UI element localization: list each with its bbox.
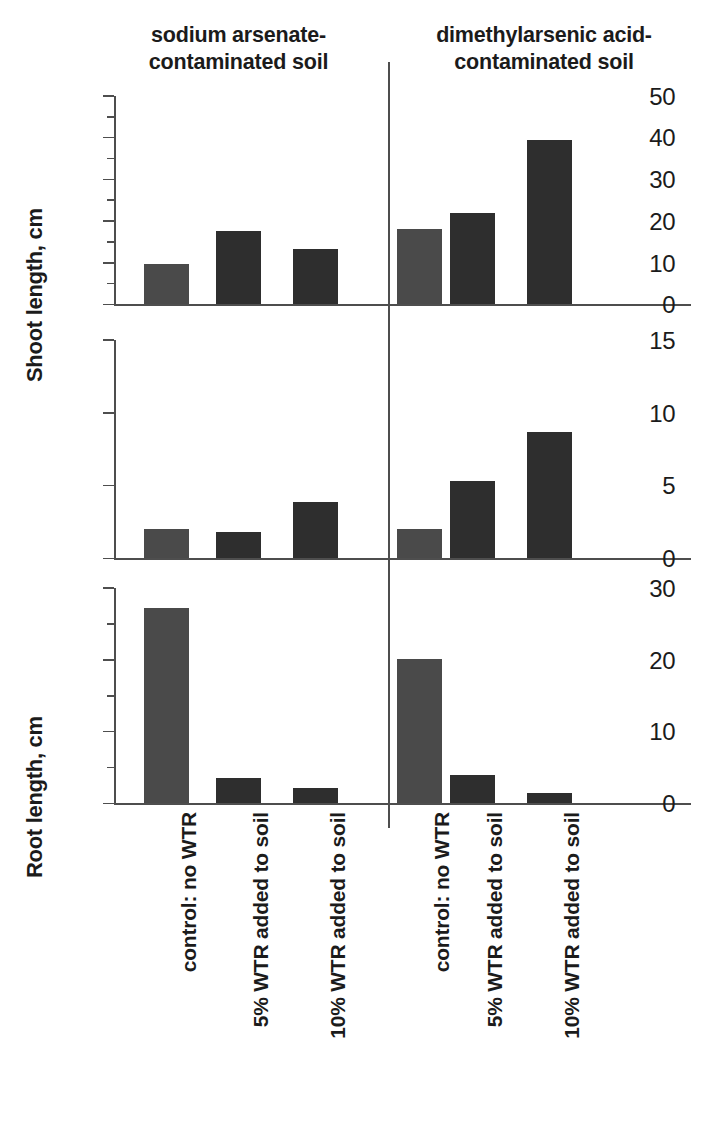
y-axis-tick-label: 0 <box>662 291 675 319</box>
y-axis-tick-label: 5 <box>662 472 675 500</box>
bar-shoot-length-3 <box>397 229 442 305</box>
bar-total-as-in-plant-5 <box>527 793 572 804</box>
x-axis-tick-labels: control: no WTR5% WTR added to soil10% W… <box>0 812 701 1122</box>
y-axis-tick-major <box>103 95 114 97</box>
y-axis-tick-minor <box>107 241 114 243</box>
bar-total-as-in-plant-1 <box>216 778 261 803</box>
x-axis-line <box>114 558 691 560</box>
bar-shoot-length-1 <box>216 231 261 304</box>
y-axis-tick-label: 15 <box>649 327 675 355</box>
bar-root-length-4 <box>450 481 495 558</box>
y-axis-tick-minor <box>107 199 114 201</box>
y-axis-tick-minor <box>107 767 114 769</box>
y-axis-tick-minor <box>107 283 114 285</box>
y-axis-tick-label: 0 <box>662 545 675 573</box>
y-axis-tick-major <box>103 137 114 139</box>
y-axis-tick-major <box>103 558 114 560</box>
group-header-line-1: dimethylarsenic acid- <box>398 22 690 49</box>
y-axis-tick-major <box>103 262 114 264</box>
y-axis-line <box>114 340 116 560</box>
group-header-line-2: contaminated soil <box>398 49 690 76</box>
bar-root-length-0 <box>144 529 189 558</box>
y-axis-tick-minor <box>107 158 114 160</box>
y-axis-tick-label: 10 <box>649 250 675 278</box>
y-axis-tick-major <box>103 179 114 181</box>
bar-total-as-in-plant-3 <box>397 659 442 803</box>
bar-shoot-length-5 <box>527 140 572 305</box>
bar-root-length-5 <box>527 432 572 559</box>
x-axis-line <box>114 803 691 805</box>
x-axis-tick-label-3: control: no WTR <box>430 812 454 972</box>
y-axis-tick-label: 10 <box>649 400 675 428</box>
bar-shoot-length-2 <box>293 249 338 304</box>
group-header-line-1: sodium arsenate- <box>96 22 381 49</box>
y-axis-line <box>114 588 116 805</box>
bar-chart-figure: sodium arsenate- contaminated soil dimet… <box>0 0 701 1133</box>
x-axis-line <box>114 304 691 306</box>
x-axis-tick-label-2: 10% WTR added to soil <box>326 812 350 1039</box>
y-axis-tick-minor <box>107 116 114 118</box>
bar-total-as-in-plant-2 <box>293 788 338 803</box>
plot-area-shoot-length: 01020304050 <box>114 96 691 306</box>
y-axis-line <box>114 96 116 306</box>
y-axis-tick-label: 10 <box>649 718 675 746</box>
y-axis-tick-label: 40 <box>649 124 675 152</box>
bar-root-length-2 <box>293 502 338 559</box>
panel-shoot-length: Shoot length, cm 01020304050 <box>0 86 701 312</box>
y-axis-tick-major <box>103 339 114 341</box>
x-axis-tick-label-5: 10% WTR added to soil <box>560 812 584 1039</box>
y-axis-tick-minor <box>107 695 114 697</box>
panel-total-as-in-plant: Total As in plant, ppm 0102030 <box>0 578 701 812</box>
y-axis-tick-major <box>103 731 114 733</box>
bar-total-as-in-plant-4 <box>450 775 495 804</box>
y-axis-tick-major <box>103 485 114 487</box>
y-axis-tick-label: 20 <box>649 647 675 675</box>
y-axis-tick-label: 50 <box>649 83 675 111</box>
group-header-sodium-arsenate: sodium arsenate- contaminated soil <box>96 22 381 77</box>
bar-total-as-in-plant-0 <box>144 608 189 803</box>
x-axis-tick-label-1: 5% WTR added to soil <box>249 812 273 1027</box>
y-axis-tick-major <box>103 220 114 222</box>
x-axis-tick-label-4: 5% WTR added to soil <box>483 812 507 1027</box>
bar-shoot-length-0 <box>144 264 189 304</box>
y-axis-tick-minor <box>107 623 114 625</box>
plot-area-total-as: 0102030 <box>114 588 691 805</box>
y-axis-tick-major <box>103 803 114 805</box>
bar-shoot-length-4 <box>450 213 495 305</box>
panel-root-length: Root length, cm 051015 <box>0 330 701 566</box>
y-axis-tick-label: 30 <box>649 575 675 603</box>
y-axis-tick-label: 30 <box>649 166 675 194</box>
y-axis-tick-major <box>103 587 114 589</box>
x-axis-tick-label-0: control: no WTR <box>177 812 201 972</box>
group-header-dimethylarsenic-acid: dimethylarsenic acid- contaminated soil <box>398 22 690 77</box>
y-axis-tick-label: 20 <box>649 208 675 236</box>
y-axis-tick-major <box>103 304 114 306</box>
bar-root-length-1 <box>216 532 261 558</box>
bar-root-length-3 <box>397 529 442 558</box>
group-header-line-2: contaminated soil <box>96 49 381 76</box>
plot-area-root-length: 051015 <box>114 340 691 560</box>
y-axis-tick-major <box>103 659 114 661</box>
y-axis-tick-major <box>103 412 114 414</box>
